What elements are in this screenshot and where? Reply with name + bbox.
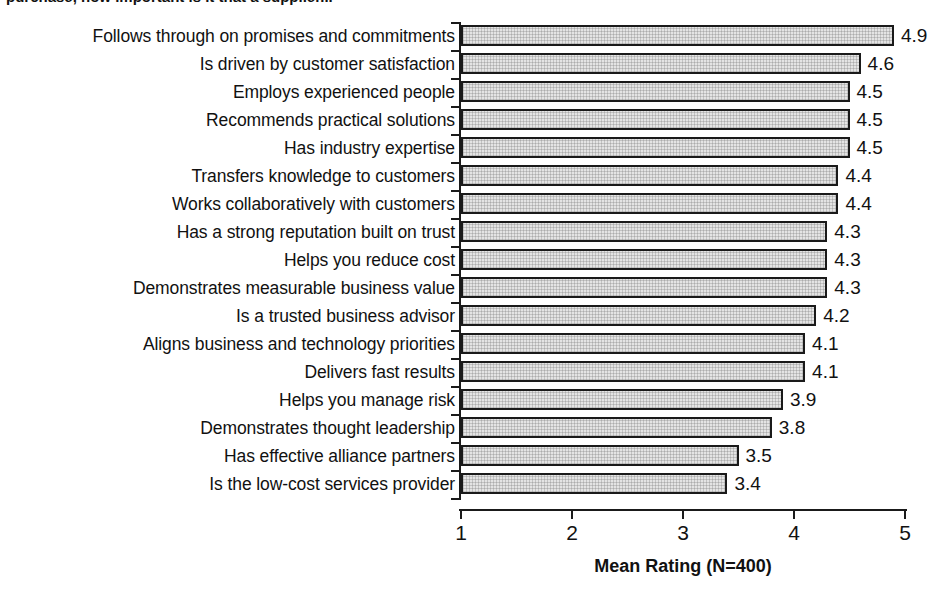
bar bbox=[461, 81, 850, 102]
bar-row: Helps you reduce cost4.3 bbox=[0, 246, 952, 274]
category-tick bbox=[451, 162, 461, 164]
category-tick bbox=[451, 134, 461, 136]
value-tick-label: 2 bbox=[552, 521, 592, 545]
category-label: Is a trusted business advisor bbox=[236, 302, 455, 330]
category-tick bbox=[451, 50, 461, 52]
category-tick bbox=[451, 414, 461, 416]
bar-row: Has effective alliance partners3.5 bbox=[0, 442, 952, 470]
value-tick-label: 1 bbox=[441, 521, 481, 545]
bar-value-label: 3.9 bbox=[790, 386, 816, 414]
x-axis-title: Mean Rating (N=400) bbox=[459, 556, 907, 577]
category-label: Recommends practical solutions bbox=[206, 106, 455, 134]
bar-value-label: 4.1 bbox=[812, 330, 838, 358]
bar-row: Has a strong reputation built on trust4.… bbox=[0, 218, 952, 246]
value-tick-label: 3 bbox=[663, 521, 703, 545]
bar-value-label: 3.5 bbox=[746, 442, 772, 470]
bar-row: Transfers knowledge to customers4.4 bbox=[0, 162, 952, 190]
bar-row: Is driven by customer satisfaction4.6 bbox=[0, 50, 952, 78]
bar bbox=[461, 193, 838, 214]
bar bbox=[461, 277, 827, 298]
category-tick bbox=[451, 218, 461, 220]
category-label: Employs experienced people bbox=[233, 78, 455, 106]
bar-row: Demonstrates thought leadership3.8 bbox=[0, 414, 952, 442]
bar-value-label: 4.2 bbox=[823, 302, 849, 330]
bar-row: Demonstrates measurable business value4.… bbox=[0, 274, 952, 302]
bar-value-label: 4.1 bbox=[812, 358, 838, 386]
category-label: Helps you reduce cost bbox=[284, 246, 455, 274]
category-label: Works collaboratively with customers bbox=[172, 190, 455, 218]
category-label: Transfers knowledge to customers bbox=[191, 162, 455, 190]
value-tick bbox=[904, 509, 906, 519]
category-label: Demonstrates thought leadership bbox=[200, 414, 455, 442]
bar-row: Aligns business and technology prioritie… bbox=[0, 330, 952, 358]
bar bbox=[461, 165, 838, 186]
value-tick bbox=[682, 509, 684, 519]
plot-area: Follows through on promises and commitme… bbox=[0, 0, 952, 600]
bar-row: Delivers fast results4.1 bbox=[0, 358, 952, 386]
bar bbox=[461, 417, 772, 438]
category-label: Has industry expertise bbox=[284, 134, 455, 162]
bar-row: Recommends practical solutions4.5 bbox=[0, 106, 952, 134]
bar bbox=[461, 305, 816, 326]
bar-value-label: 4.3 bbox=[834, 274, 860, 302]
bar-row: Follows through on promises and commitme… bbox=[0, 22, 952, 50]
bar-value-label: 4.3 bbox=[834, 246, 860, 274]
bar-row: Employs experienced people4.5 bbox=[0, 78, 952, 106]
bar-value-label: 4.5 bbox=[857, 134, 883, 162]
category-tick bbox=[451, 274, 461, 276]
category-label: Has a strong reputation built on trust bbox=[177, 218, 455, 246]
bar-value-label: 4.3 bbox=[834, 218, 860, 246]
value-tick bbox=[793, 509, 795, 519]
bar bbox=[461, 53, 861, 74]
bar-value-label: 4.5 bbox=[857, 106, 883, 134]
bar bbox=[461, 389, 783, 410]
category-tick bbox=[451, 190, 461, 192]
bar bbox=[461, 137, 850, 158]
bar-value-label: 4.4 bbox=[845, 190, 871, 218]
bar-row: Is the low-cost services provider3.4 bbox=[0, 470, 952, 498]
bar bbox=[461, 25, 894, 46]
bar-row: Is a trusted business advisor4.2 bbox=[0, 302, 952, 330]
category-tick bbox=[451, 302, 461, 304]
bar bbox=[461, 333, 805, 354]
category-label: Demonstrates measurable business value bbox=[133, 274, 455, 302]
category-label: Is driven by customer satisfaction bbox=[200, 50, 455, 78]
category-tick bbox=[451, 442, 461, 444]
category-tick bbox=[451, 470, 461, 472]
bar-row: Works collaboratively with customers4.4 bbox=[0, 190, 952, 218]
category-tick bbox=[451, 498, 461, 500]
value-tick bbox=[571, 509, 573, 519]
value-tick bbox=[460, 509, 462, 519]
bar-value-label: 3.4 bbox=[734, 470, 760, 498]
category-label: Is the low-cost services provider bbox=[209, 470, 455, 498]
category-tick bbox=[451, 106, 461, 108]
category-tick bbox=[451, 358, 461, 360]
bar-value-label: 4.5 bbox=[857, 78, 883, 106]
bar-value-label: 4.9 bbox=[901, 22, 927, 50]
category-tick bbox=[451, 22, 461, 24]
value-tick-label: 4 bbox=[774, 521, 814, 545]
bar-rows: Follows through on promises and commitme… bbox=[0, 22, 952, 498]
category-label: Helps you manage risk bbox=[279, 386, 455, 414]
category-label: Has effective alliance partners bbox=[224, 442, 455, 470]
value-tick-label: 5 bbox=[885, 521, 925, 545]
category-tick bbox=[451, 330, 461, 332]
bar bbox=[461, 473, 727, 494]
bar-row: Helps you manage risk3.9 bbox=[0, 386, 952, 414]
category-label: Aligns business and technology prioritie… bbox=[143, 330, 455, 358]
bar-chart: purchase, how important is it that a sup… bbox=[0, 0, 952, 600]
bar bbox=[461, 221, 827, 242]
bar-value-label: 3.8 bbox=[779, 414, 805, 442]
category-tick bbox=[451, 246, 461, 248]
category-tick bbox=[451, 386, 461, 388]
category-tick bbox=[451, 78, 461, 80]
bar-row: Has industry expertise4.5 bbox=[0, 134, 952, 162]
category-label: Delivers fast results bbox=[304, 358, 455, 386]
bar-value-label: 4.4 bbox=[845, 162, 871, 190]
bar-value-label: 4.6 bbox=[868, 50, 894, 78]
bar bbox=[461, 361, 805, 382]
bar bbox=[461, 445, 739, 466]
bar bbox=[461, 249, 827, 270]
category-axis bbox=[459, 22, 461, 498]
bar bbox=[461, 109, 850, 130]
